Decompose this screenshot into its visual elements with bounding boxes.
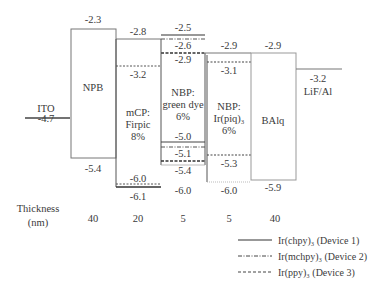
green-dye-homo-device2: -5.1 [175, 148, 192, 159]
lif-al-value: -3.2 [310, 73, 327, 84]
irpiq-host-homo: -6.0 [221, 185, 238, 196]
lif-al-electrode: -3.2 LiF/Al [296, 69, 342, 97]
npb-label: NPB [83, 82, 103, 93]
thickness-label: Thickness [17, 203, 60, 214]
green-dye-homo-device1: -5.0 [175, 131, 192, 142]
irpiq-thickness: 5 [226, 213, 231, 224]
thickness-unit-label: (nm) [28, 217, 49, 229]
balq-homo: -5.9 [265, 182, 282, 193]
layer-npb: -2.3 NPB -5.4 40 [71, 14, 116, 224]
irpiq-host-lumo: -2.9 [221, 40, 238, 51]
firpic-lumo: -3.2 [130, 69, 147, 80]
lif-al-label: LiF/Al [304, 86, 333, 97]
legend-item-device2: Ir(mchpy)₃ (Device 2) [238, 251, 367, 263]
green-dye-thickness: 5 [180, 213, 185, 224]
ito-value: -4.7 [38, 113, 55, 124]
green-dye-label: green dye [162, 99, 203, 110]
legend: Ir(chpy)₃ (Device 1) Ir(mchpy)₃ (Device … [238, 235, 367, 279]
npb-thickness: 40 [88, 213, 99, 224]
green-dye-lumo-device2: -2.6 [175, 40, 192, 51]
firpic-concentration: 8% [131, 131, 145, 142]
mcp-thickness: 20 [133, 213, 144, 224]
green-dye-lumo-device1: -2.5 [175, 22, 192, 33]
legend-label-device3: Ir(ppy)₃ (Device 3) [278, 267, 355, 279]
nbp-irpiq-label: NBP: [217, 101, 240, 112]
mcp-label: mCP: [126, 107, 150, 118]
green-dye-lumo-device3: -2.9 [175, 54, 192, 65]
irpiq-homo: -5.3 [221, 158, 238, 169]
balq-label: BAlq [262, 115, 286, 126]
legend-label-device1: Ir(chpy)₃ (Device 1) [278, 235, 359, 247]
layer-nbp-irpiq: -2.9 -3.1 NBP: Ir(piq)₃ 6% -5.3 -6.0 5 [205, 40, 251, 224]
legend-item-device3: Ir(ppy)₃ (Device 3) [238, 267, 355, 279]
firpic-label: Firpic [125, 119, 150, 130]
green-dye-concentration: 6% [176, 111, 190, 122]
legend-item-device1: Ir(chpy)₃ (Device 1) [238, 235, 359, 247]
nbp-green-homo: -6.0 [175, 185, 192, 196]
npb-homo: -5.4 [85, 163, 102, 174]
balq-lumo: -2.9 [265, 40, 282, 51]
green-dye-homo-device3: -5.4 [175, 165, 192, 176]
mcp-homo: -6.1 [130, 191, 147, 202]
irpiq-concentration: 6% [222, 125, 236, 136]
energy-level-diagram: ITO -4.7 -2.3 NPB -5.4 40 -2.8 -3.2 mCP:… [0, 0, 391, 296]
balq-thickness: 40 [270, 213, 281, 224]
mcp-lumo: -2.8 [130, 26, 147, 37]
irpiq-lumo: -3.1 [221, 65, 238, 76]
layer-nbp-green-dye: -2.5 -2.6 -2.9 NBP: green dye 6% -5.0 -5… [161, 22, 205, 224]
irpiq-label: Ir(piq)₃ [213, 113, 244, 125]
legend-label-device2: Ir(mchpy)₃ (Device 2) [278, 251, 367, 263]
ito-electrode: ITO -4.7 [25, 103, 70, 124]
layer-mcp-firpic: -2.8 -3.2 mCP: Firpic 8% -6.0 -6.1 20 [116, 26, 161, 224]
nbp-green-label: NBP: [171, 87, 194, 98]
npb-lumo: -2.3 [85, 14, 102, 25]
firpic-homo: -6.0 [130, 173, 147, 184]
layer-balq: -2.9 BAlq -5.9 40 [251, 40, 296, 224]
